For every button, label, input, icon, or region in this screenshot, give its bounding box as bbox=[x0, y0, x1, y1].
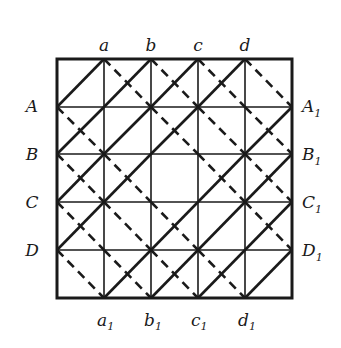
right-label-D1-sub: 1 bbox=[316, 251, 323, 264]
bottom-label-b1-sub: 1 bbox=[155, 320, 162, 333]
solid-diagonal bbox=[104, 59, 151, 107]
bottom-label-d1: d1 bbox=[238, 310, 256, 333]
right-label-C1-sub: 1 bbox=[315, 203, 322, 216]
bottom-label-c1: c1 bbox=[191, 310, 208, 333]
bottom-label-c1-base: c bbox=[191, 310, 201, 330]
solid-diagonal bbox=[198, 59, 245, 107]
left-label-C: C bbox=[25, 192, 38, 212]
right-label-D1-base: D bbox=[301, 240, 316, 260]
dashed-diagonal bbox=[245, 59, 292, 107]
solid-diagonal bbox=[245, 107, 292, 154]
bottom-label-a1-base: a bbox=[97, 310, 107, 330]
dashed-diagonals bbox=[57, 59, 292, 298]
right-label-D1: D1 bbox=[301, 240, 323, 264]
left-label-D: D bbox=[24, 240, 39, 260]
solid-diagonal bbox=[57, 107, 104, 154]
solid-diagonal bbox=[151, 59, 198, 107]
right-label-B1-base: B bbox=[301, 144, 315, 164]
bottom-label-a1: a1 bbox=[97, 310, 114, 333]
solid-diagonal bbox=[198, 202, 245, 250]
solid-diagonal bbox=[198, 154, 245, 202]
grid-diagram: a b c d A B C D A1 B1 C1 D1 a1 b1 c1 d1 bbox=[0, 0, 341, 348]
solid-diagonal bbox=[104, 250, 151, 298]
top-label-d: d bbox=[240, 35, 251, 55]
solid-diagonal bbox=[151, 107, 198, 154]
right-label-A1: A1 bbox=[300, 96, 321, 120]
top-label-c: c bbox=[193, 35, 203, 55]
solid-diagonal bbox=[104, 154, 151, 202]
bottom-label-a1-sub: 1 bbox=[107, 320, 114, 333]
outer-border bbox=[57, 59, 292, 298]
solid-diagonals bbox=[57, 59, 292, 298]
solid-diagonal bbox=[245, 202, 292, 250]
right-label-B1: B1 bbox=[301, 144, 322, 168]
solid-diagonal bbox=[151, 202, 198, 250]
top-label-a: a bbox=[99, 35, 109, 55]
right-label-C1-base: C bbox=[302, 192, 315, 212]
dashed-diagonal bbox=[104, 202, 151, 250]
bottom-label-b1-base: b bbox=[144, 310, 155, 330]
solid-diagonal bbox=[57, 59, 104, 107]
right-label-A1-sub: 1 bbox=[314, 107, 321, 120]
left-label-A: A bbox=[24, 96, 38, 116]
top-label-b: b bbox=[146, 35, 157, 55]
solid-diagonal bbox=[245, 154, 292, 202]
dashed-diagonal bbox=[198, 107, 245, 154]
solid-diagonal bbox=[104, 107, 151, 154]
solid-diagonal bbox=[151, 250, 198, 298]
solid-diagonal bbox=[57, 154, 104, 202]
grid-lines bbox=[57, 59, 292, 298]
left-label-B: B bbox=[25, 144, 39, 164]
right-label-A1-base: A bbox=[300, 96, 314, 116]
bottom-label-d1-base: d bbox=[238, 310, 249, 330]
bottom-label-c1-sub: 1 bbox=[201, 320, 208, 333]
dashed-diagonal bbox=[57, 250, 104, 298]
bottom-label-b1: b1 bbox=[144, 310, 162, 333]
bottom-label-d1-sub: 1 bbox=[249, 320, 256, 333]
solid-diagonal bbox=[57, 202, 104, 250]
right-label-C1: C1 bbox=[302, 192, 322, 216]
solid-diagonal bbox=[245, 250, 292, 298]
solid-diagonal bbox=[198, 250, 245, 298]
right-label-B1-sub: 1 bbox=[315, 155, 322, 168]
